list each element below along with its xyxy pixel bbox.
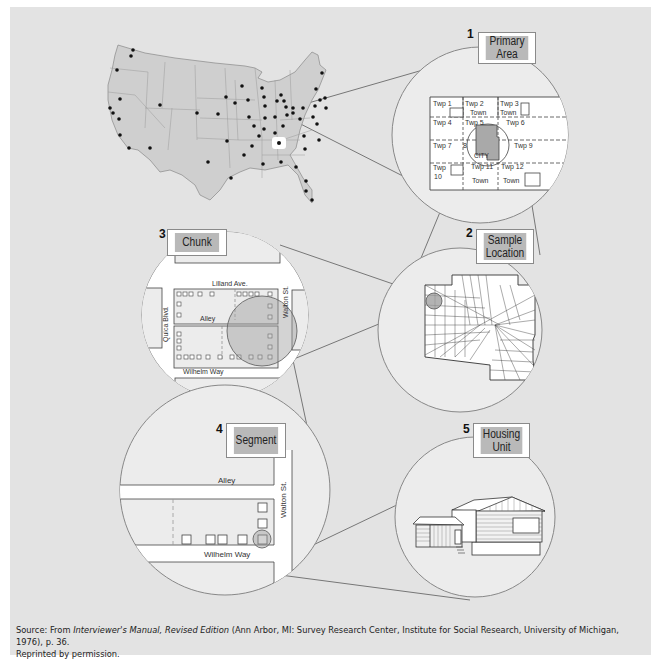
street-label: Alley bbox=[218, 476, 235, 485]
label-line: Segment bbox=[236, 434, 277, 447]
township-label: 10 bbox=[434, 173, 442, 180]
label-line: Housing bbox=[483, 427, 520, 441]
township-label: Twp 2 bbox=[465, 100, 484, 108]
us-map bbox=[108, 45, 328, 203]
label-line: Sample bbox=[488, 233, 523, 247]
street-label: Wilhelm Way bbox=[204, 550, 250, 559]
township-label: Twp 3 bbox=[500, 100, 519, 108]
street-label: Lilland Ave. bbox=[212, 280, 248, 287]
label-line: Unit bbox=[492, 440, 510, 454]
step-number: 2 bbox=[466, 226, 473, 240]
township-label: Town bbox=[503, 177, 519, 184]
township-label: Twp 7 bbox=[433, 142, 452, 150]
source-prefix: Source: From bbox=[16, 625, 73, 635]
source-caption: Source: From Interviewer's Manual, Revis… bbox=[16, 624, 646, 660]
circle-sample-location bbox=[378, 248, 542, 412]
township-label: Twp 9 bbox=[514, 142, 533, 150]
city-label: CITY bbox=[474, 152, 489, 159]
township-label: Town bbox=[470, 109, 486, 116]
township-label: Twp 6 bbox=[506, 119, 525, 127]
township-label: Twp 1 bbox=[433, 100, 452, 108]
label-line: Primary bbox=[489, 34, 524, 48]
source-title: Interviewer's Manual, Revised Edition bbox=[73, 625, 229, 635]
label-line: Location bbox=[486, 246, 525, 260]
circle-housing-unit bbox=[395, 437, 555, 597]
step-number: 1 bbox=[467, 27, 474, 41]
township-label: Twp 11 bbox=[471, 163, 493, 171]
step-number: 3 bbox=[159, 227, 166, 241]
label-line: Area bbox=[496, 47, 518, 61]
street-label: Walton St. bbox=[279, 481, 288, 518]
label-line: Chunk bbox=[182, 236, 211, 249]
circle-segment: Alley Walton St. Wilhelm Way bbox=[110, 385, 330, 610]
township-label: Twp bbox=[433, 164, 446, 172]
selected-housing-unit-marker bbox=[253, 530, 271, 548]
label-housing-unit: HousingUnit bbox=[473, 423, 530, 458]
street-label: Quica Blvd. bbox=[162, 306, 170, 342]
label-sample-location: SampleLocation bbox=[476, 229, 534, 264]
township-label: Town bbox=[472, 177, 488, 184]
township-label: 8 bbox=[463, 142, 467, 149]
township-label: Twp 4 bbox=[433, 119, 452, 127]
label-segment: Segment bbox=[226, 423, 286, 458]
street-label: Walton St. bbox=[282, 286, 289, 318]
step-number: 5 bbox=[463, 422, 470, 436]
label-chunk: Chunk bbox=[167, 229, 227, 256]
street-label: Alley bbox=[200, 315, 216, 323]
township-label: Twp 12 bbox=[501, 163, 524, 171]
township-label: Town bbox=[500, 109, 516, 116]
circle-primary-area: Twp 1 Twp 2 Town Twp 3 Town Twp 4 Twp 5 … bbox=[392, 47, 575, 223]
label-primary-area: PrimaryArea bbox=[478, 32, 536, 64]
township-label: Twp 5 bbox=[465, 119, 484, 127]
selected-chunk-marker bbox=[426, 293, 442, 309]
source-permission: Reprinted by permission. bbox=[16, 649, 120, 659]
step-number: 4 bbox=[216, 422, 223, 436]
street-label: Wilhelm Way bbox=[183, 368, 224, 376]
